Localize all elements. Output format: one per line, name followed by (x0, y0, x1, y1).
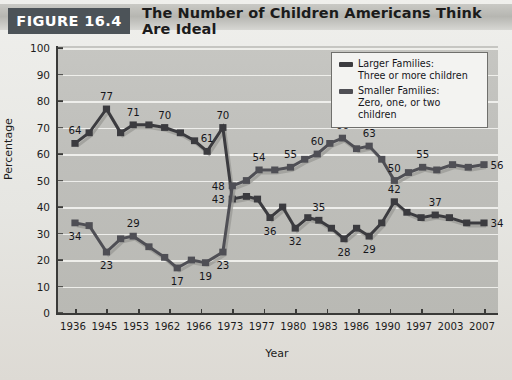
y-axis-title: Percentage (2, 118, 15, 180)
data-point-label: 63 (363, 128, 376, 139)
legend-smaller-line2: Zero, one, or two children (358, 97, 481, 120)
series-marker (86, 129, 93, 136)
series-marker (340, 235, 347, 242)
series-marker (432, 212, 439, 219)
x-tick-label: 1973 (217, 321, 243, 332)
series-marker (188, 257, 195, 264)
series-marker (353, 145, 360, 152)
data-point-label: 60 (311, 136, 324, 147)
data-point-label: 29 (127, 218, 140, 229)
y-tick-label: 70 (20, 122, 50, 134)
data-point-label: 70 (216, 109, 229, 120)
series-marker (292, 225, 299, 232)
series-marker (86, 222, 93, 229)
figure-number-box: FIGURE 16.4 (8, 8, 130, 34)
series-marker (378, 220, 385, 227)
data-point-label: 28 (338, 246, 351, 257)
x-tick-label: 1962 (154, 321, 180, 332)
x-tick-label: 1936 (60, 321, 86, 332)
figure-header-bar: FIGURE 16.4 The Number of Children Ameri… (0, 4, 512, 30)
series-marker (405, 169, 412, 176)
x-tick-label: 1953 (123, 321, 149, 332)
y-tick-label: 10 (20, 281, 50, 293)
series-marker (287, 164, 294, 171)
series-marker (266, 214, 273, 221)
series-marker (103, 249, 110, 256)
data-point-label: 36 (264, 225, 277, 236)
series-marker (71, 140, 78, 147)
data-point-label: 48 (212, 180, 225, 191)
series-marker (465, 164, 472, 171)
series-marker (446, 214, 453, 221)
series-marker (449, 161, 456, 168)
series-marker (419, 164, 426, 171)
series-marker (103, 106, 110, 113)
data-point-label: 35 (312, 202, 325, 213)
data-point-label: 61 (201, 133, 214, 144)
figure-title: The Number of Children Americans Think A… (142, 8, 512, 34)
series-marker (314, 151, 321, 158)
legend-swatch-smaller (339, 89, 353, 94)
series-marker (433, 167, 440, 174)
series-marker (339, 135, 346, 142)
y-tick-label: 60 (20, 148, 50, 160)
series-marker (254, 196, 261, 203)
data-point-label: 37 (429, 196, 442, 207)
data-point-label: 55 (284, 149, 297, 160)
series-marker (145, 243, 152, 250)
data-point-label: 34 (69, 230, 82, 241)
x-axis-title-wrap: Year (56, 347, 498, 360)
legend-smaller-line1: Smaller Families: (358, 85, 481, 97)
y-tick-label: 90 (20, 69, 50, 81)
series-marker (229, 182, 236, 189)
series-marker (204, 148, 211, 155)
y-tick-label: 0 (20, 307, 50, 319)
legend-item-larger: Larger Families: Three or more children (338, 58, 481, 81)
y-tick-label: 100 (20, 42, 50, 54)
y-tick-label: 30 (20, 228, 50, 240)
series-marker (366, 233, 373, 240)
series-marker (255, 167, 262, 174)
series-marker (328, 225, 335, 232)
x-tick-label: 1966 (186, 321, 212, 332)
data-point-label: 71 (127, 106, 140, 117)
series-marker (130, 233, 137, 240)
series-marker (219, 249, 226, 256)
series-marker (177, 129, 184, 136)
data-point-label: 29 (363, 244, 376, 255)
data-point-label: 56 (491, 159, 504, 170)
series-marker (326, 140, 333, 147)
series-marker (366, 143, 373, 150)
x-tick-label: 1945 (91, 321, 117, 332)
data-point-label: 55 (416, 149, 429, 160)
series-marker (315, 217, 322, 224)
series-marker (202, 259, 209, 266)
series-marker (161, 254, 168, 261)
series-marker (279, 204, 286, 211)
y-tick-label: 40 (20, 201, 50, 213)
y-tick-label: 50 (20, 175, 50, 187)
series-marker (243, 177, 250, 184)
x-tick-label: 1980 (280, 321, 306, 332)
data-point-label: 50 (388, 162, 401, 173)
series-marker (191, 137, 198, 144)
legend-swatch-larger (339, 62, 353, 67)
legend-larger-line1: Larger Families: (358, 58, 468, 70)
data-point-label: 34 (491, 217, 504, 228)
series-marker (391, 198, 398, 205)
series-marker (130, 121, 137, 128)
series-marker (145, 121, 152, 128)
x-tick-label: 1997 (406, 321, 432, 332)
data-point-label: 32 (289, 236, 302, 247)
series-marker (463, 220, 470, 227)
figure-container: FIGURE 16.4 The Number of Children Ameri… (0, 0, 512, 380)
series-marker (271, 167, 278, 174)
data-point-label: 23 (216, 260, 229, 271)
x-tick-label: 1986 (343, 321, 369, 332)
series-marker (219, 124, 226, 131)
series-marker (480, 220, 487, 227)
data-point-label: 54 (253, 151, 266, 162)
series-marker (117, 235, 124, 242)
data-point-label: 70 (158, 109, 171, 120)
x-tick-label: 1983 (312, 321, 338, 332)
